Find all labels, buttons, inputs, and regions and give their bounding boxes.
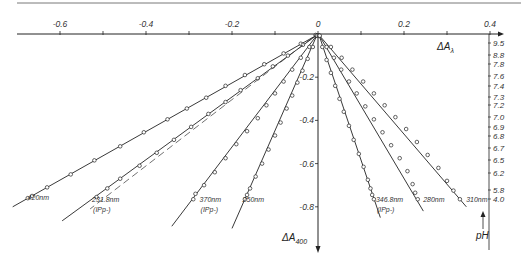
ph-arrow-icon (481, 211, 486, 217)
data-point (235, 142, 239, 146)
ph-scale: 9.58.87.87.67.47.37.27.06.96.86.76.56.25… (475, 34, 505, 250)
data-point (362, 165, 366, 169)
data-point (142, 130, 146, 134)
series-label: 420nm (28, 194, 50, 201)
data-point (106, 187, 110, 191)
labels-layer: 420nm231.8nm(IPp-)370nm(IPp-)250nm346.8n… (28, 194, 488, 214)
data-point (369, 187, 373, 191)
data-point (194, 192, 198, 196)
y-tick-label: -0.8 (299, 202, 314, 212)
x-tick-label: -0.2 (225, 19, 240, 29)
series-label: 231.8nm (91, 196, 119, 203)
data-point (138, 164, 142, 168)
data-point (202, 183, 206, 187)
data-point (118, 177, 122, 181)
series-line (319, 35, 423, 211)
data-point (352, 138, 356, 142)
data-point (398, 156, 402, 160)
data-point (299, 56, 303, 60)
data-point (370, 193, 374, 197)
ph-tick-label: 7.0 (493, 113, 505, 122)
ph-tick-label: 6.2 (493, 169, 505, 178)
data-point (271, 65, 275, 69)
data-point (224, 84, 228, 88)
series-280nm (317, 34, 423, 211)
data-point (381, 130, 385, 134)
ph-tick-label: 9.5 (493, 39, 505, 48)
y-tick-label: -0.6 (299, 159, 314, 169)
data-point (273, 134, 277, 138)
data-point (416, 197, 420, 201)
data-point (256, 116, 260, 120)
data-point (273, 92, 277, 96)
data-point (69, 173, 73, 177)
data-point (267, 148, 271, 152)
ph-tick-label: 7.6 (493, 72, 505, 81)
data-point (254, 175, 258, 179)
data-point (458, 197, 462, 201)
x-tick-label: -0.4 (139, 19, 154, 29)
data-point (213, 170, 217, 174)
x-axis-title-subscript: λ (449, 47, 454, 54)
data-point (207, 112, 211, 116)
y-tick-label: -0.4 (299, 115, 314, 125)
data-point (296, 81, 300, 85)
data-point (192, 197, 196, 201)
data-point (204, 96, 208, 100)
series-310nm (318, 34, 466, 207)
data-point (279, 121, 283, 125)
data-point (224, 156, 228, 160)
data-point (172, 138, 176, 142)
data-point (361, 80, 365, 84)
series-line (319, 35, 466, 207)
data-point (239, 88, 243, 92)
x-tick-label: 0.2 (398, 19, 410, 29)
data-point (342, 110, 346, 114)
data-point (332, 56, 336, 60)
data-point (426, 153, 430, 157)
series-label: 370nm (200, 196, 222, 203)
ph-tick-label: 6.8 (493, 132, 505, 141)
data-point (329, 45, 333, 49)
ph-tick-label: 6.5 (493, 156, 505, 165)
data-point (347, 124, 351, 128)
data-point (372, 92, 376, 96)
data-point (285, 107, 289, 111)
series-346-8nm (317, 34, 380, 218)
data-point (406, 169, 410, 173)
y-axis-arrow (316, 246, 321, 253)
data-point (338, 97, 342, 101)
series-sublabel: (IPp-) (377, 206, 395, 214)
data-point (340, 56, 344, 60)
x-tick-label: 0 (316, 19, 321, 29)
data-point (318, 34, 322, 38)
x-axis-arrow (498, 32, 504, 37)
data-point (383, 103, 387, 107)
ph-tick-label: 5.8 (493, 186, 505, 195)
y-axis-title: ΔA400 (281, 232, 307, 245)
data-point (306, 57, 310, 61)
data-point (366, 178, 370, 182)
data-point (413, 191, 417, 195)
data-point (355, 92, 359, 96)
series-420nm (13, 33, 318, 207)
data-point (452, 189, 456, 193)
x-tick-label: -0.6 (53, 19, 68, 29)
data-point (166, 118, 170, 122)
data-point (394, 115, 398, 119)
series-sublabel: (IPp-) (201, 206, 219, 214)
data-point (93, 159, 97, 163)
data-point (351, 68, 355, 72)
data-point (243, 73, 247, 77)
series-label: 250nm (242, 196, 265, 203)
data-point (333, 84, 337, 88)
chart: -0.6-0.4-0.200.20.4-0.2-0.4-0.6-0.8 420n… (0, 0, 521, 263)
data-point (321, 45, 325, 49)
ph-tick-label: 7.4 (493, 82, 505, 91)
ph-tick-label: 4.0 (493, 195, 505, 204)
ph-axis-title: pH (475, 230, 490, 241)
data-point (364, 105, 368, 109)
data-point (308, 45, 312, 49)
series-label: 346.8nm (376, 196, 403, 203)
x-tick-label: 0.4 (484, 19, 496, 29)
